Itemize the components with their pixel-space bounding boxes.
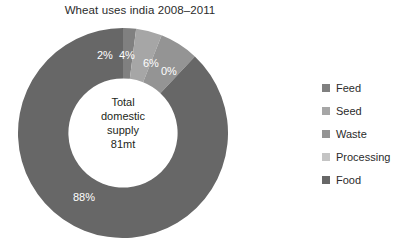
chart-title: Wheat uses india 2008–2011 bbox=[0, 4, 280, 16]
doughnut-svg bbox=[18, 28, 228, 238]
doughnut-slice-food[interactable] bbox=[18, 28, 228, 238]
legend-swatch-icon-seed bbox=[322, 107, 330, 115]
doughnut-slice-group bbox=[18, 28, 228, 238]
legend-item-processing[interactable]: Processing bbox=[322, 145, 404, 168]
legend-item-feed[interactable]: Feed bbox=[322, 76, 404, 99]
legend-swatch-icon-waste bbox=[322, 130, 330, 138]
legend-item-seed[interactable]: Seed bbox=[322, 99, 404, 122]
legend-label-processing: Processing bbox=[336, 151, 390, 163]
legend-item-food[interactable]: Food bbox=[322, 168, 404, 191]
legend-label-feed: Feed bbox=[336, 82, 361, 94]
legend-label-waste: Waste bbox=[336, 128, 367, 140]
legend-swatch-icon-feed bbox=[322, 84, 330, 92]
legend-label-food: Food bbox=[336, 174, 361, 186]
chart-legend: Feed Seed Waste Processing Food bbox=[322, 76, 404, 191]
legend-swatch-icon-processing bbox=[322, 153, 330, 161]
legend-item-waste[interactable]: Waste bbox=[322, 122, 404, 145]
legend-swatch-icon-food bbox=[322, 176, 330, 184]
legend-label-seed: Seed bbox=[336, 105, 362, 117]
doughnut-chart bbox=[18, 28, 228, 238]
